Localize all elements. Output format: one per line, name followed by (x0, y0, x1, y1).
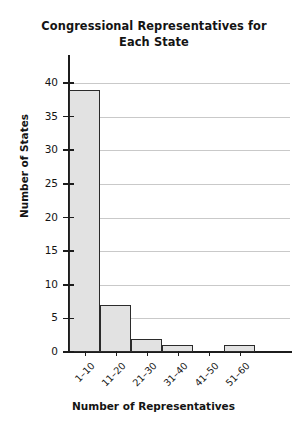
chart-title-line-2: Each State (34, 34, 274, 50)
y-tick-mark (63, 284, 74, 286)
x-axis-title: Number of Representatives (0, 400, 307, 412)
x-tick-mark (85, 351, 86, 356)
bar (131, 339, 162, 352)
chart-title: Congressional Representatives for Each S… (34, 18, 274, 50)
y-tick-mark (63, 318, 74, 320)
y-axis-title: Number of States (18, 86, 30, 246)
y-tick-mark (63, 351, 74, 353)
x-tick-mark (240, 351, 241, 356)
gridline (69, 184, 290, 185)
x-tick-label: 31–40 (153, 360, 189, 396)
y-tick-label: 40 (30, 76, 58, 88)
x-tick-label: 11–20 (91, 360, 127, 396)
x-tick-label: 1–10 (60, 360, 96, 396)
bar (69, 90, 100, 352)
y-tick-label: 0 (30, 345, 58, 357)
x-tick-mark (209, 351, 210, 356)
y-tick-mark (63, 116, 74, 118)
plot-area (69, 83, 290, 352)
bar (100, 305, 131, 352)
y-tick-label: 20 (30, 211, 58, 223)
gridline (69, 218, 290, 219)
y-tick-label: 10 (30, 278, 58, 290)
gridline (69, 285, 290, 286)
x-tick-mark (147, 351, 148, 356)
gridline (69, 83, 290, 84)
gridline (69, 251, 290, 252)
y-tick-mark (63, 217, 74, 219)
x-tick-mark (116, 351, 117, 356)
histogram-chart: Congressional Representatives for Each S… (0, 0, 307, 424)
y-tick-label: 35 (30, 110, 58, 122)
y-tick-mark (63, 183, 74, 185)
y-tick-label: 25 (30, 177, 58, 189)
y-tick-label: 5 (30, 311, 58, 323)
x-tick-label: 51–60 (215, 360, 251, 396)
y-tick-mark (63, 149, 74, 151)
y-tick-mark (63, 82, 74, 84)
y-tick-label: 30 (30, 143, 58, 155)
chart-title-line-1: Congressional Representatives for (34, 18, 274, 34)
y-tick-mark (63, 250, 74, 252)
x-tick-label: 41–50 (184, 360, 220, 396)
y-tick-label: 15 (30, 244, 58, 256)
x-tick-label: 21–30 (122, 360, 158, 396)
gridline (69, 150, 290, 151)
gridline (69, 117, 290, 118)
x-tick-mark (178, 351, 179, 356)
